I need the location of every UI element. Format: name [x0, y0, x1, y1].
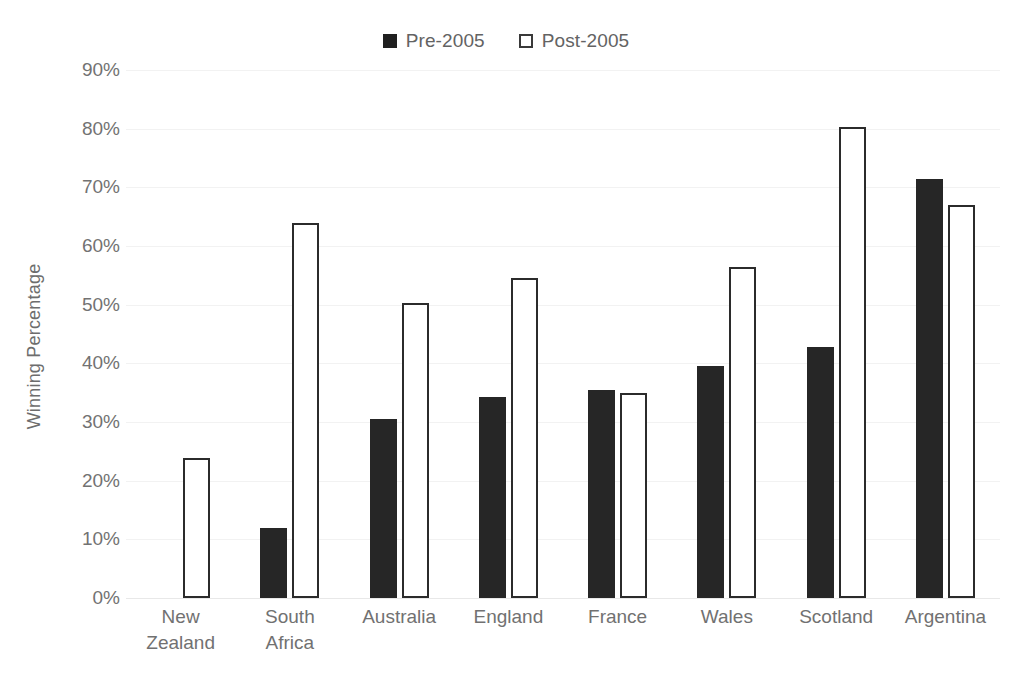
bar-post-2005[interactable] [402, 303, 429, 598]
bar-group [563, 70, 672, 598]
bar-group [782, 70, 891, 598]
bar-pre-2005[interactable] [479, 397, 506, 598]
bar-group [454, 70, 563, 598]
x-axis-tick-label: Wales [672, 604, 781, 655]
y-axis-tick-label: 60% [82, 235, 120, 257]
bar-pre-2005[interactable] [260, 528, 287, 598]
legend-item-post-2005[interactable]: Post-2005 [519, 30, 630, 52]
bar-pre-2005[interactable] [697, 366, 724, 598]
y-axis-tick-label: 30% [82, 411, 120, 433]
y-axis-tick-label: 90% [82, 59, 120, 81]
x-axis-tick-label: South Africa [235, 604, 344, 655]
bar-post-2005[interactable] [620, 393, 647, 598]
plot-area [126, 70, 1000, 598]
y-axis-tick-label: 10% [82, 528, 120, 550]
gridline [126, 598, 1000, 599]
bar-post-2005[interactable] [839, 127, 866, 598]
bar-group [126, 70, 235, 598]
y-axis-tick-label: 0% [93, 587, 120, 609]
bar-group [345, 70, 454, 598]
bar-chart: Pre-2005 Post-2005 Winning Percentage 90… [0, 0, 1012, 692]
x-axis-tick-label: France [563, 604, 672, 655]
y-axis-tick-label: 20% [82, 470, 120, 492]
x-axis-tick-labels: New ZealandSouth AfricaAustraliaEnglandF… [126, 604, 1000, 655]
x-axis-tick-label: Scotland [782, 604, 891, 655]
bar-post-2005[interactable] [292, 223, 319, 598]
y-axis-tick-label: 80% [82, 118, 120, 140]
x-axis-tick-label: Argentina [891, 604, 1000, 655]
y-axis-tick-labels: 90%80%70%60%50%40%30%20%10%0% [60, 70, 120, 598]
filled-square-icon [383, 34, 397, 48]
bar-pre-2005[interactable] [807, 347, 834, 598]
x-axis-tick-label: England [454, 604, 563, 655]
bar-post-2005[interactable] [729, 267, 756, 598]
bar-group [235, 70, 344, 598]
y-axis-title: Winning Percentage [18, 0, 52, 692]
x-axis-tick-label: Australia [345, 604, 454, 655]
legend-label-pre-2005: Pre-2005 [406, 30, 485, 52]
legend-label-post-2005: Post-2005 [542, 30, 630, 52]
y-axis-title-text: Winning Percentage [25, 263, 46, 429]
outlined-square-icon [519, 34, 533, 48]
y-axis-tick-label: 40% [82, 352, 120, 374]
bar-pre-2005[interactable] [370, 419, 397, 598]
y-axis-tick-label: 50% [82, 294, 120, 316]
bar-pre-2005[interactable] [916, 179, 943, 598]
y-axis-tick-label: 70% [82, 176, 120, 198]
legend-item-pre-2005[interactable]: Pre-2005 [383, 30, 485, 52]
bar-groups [126, 70, 1000, 598]
chart-legend: Pre-2005 Post-2005 [0, 30, 1012, 52]
x-axis-tick-label: New Zealand [126, 604, 235, 655]
bar-post-2005[interactable] [948, 205, 975, 598]
bar-pre-2005[interactable] [588, 390, 615, 598]
bar-post-2005[interactable] [511, 278, 538, 598]
bar-group [891, 70, 1000, 598]
bar-post-2005[interactable] [183, 458, 210, 598]
bar-group [672, 70, 781, 598]
